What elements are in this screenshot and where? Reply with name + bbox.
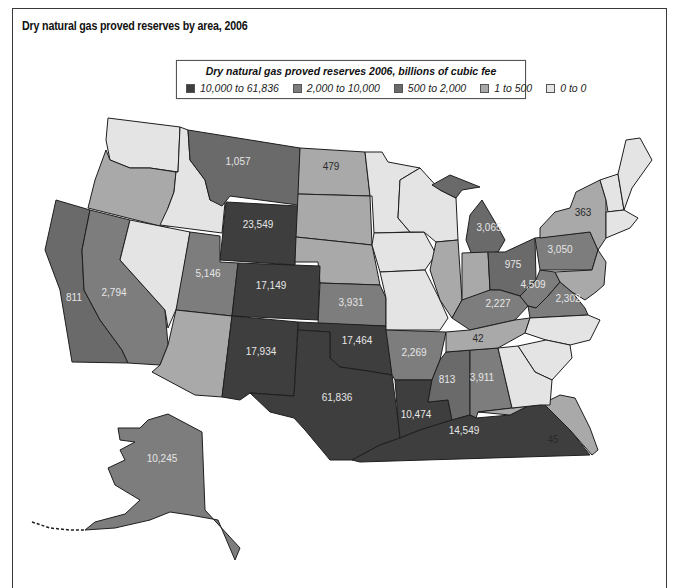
label-arkansas: 2,269: [401, 347, 426, 358]
region-mass-ct-ri: [606, 210, 638, 238]
region-wyoming: [220, 202, 298, 265]
label-wyoming: 23,549: [243, 219, 274, 230]
label-mississippi: 813: [439, 374, 456, 385]
label-kansas: 3,931: [338, 297, 363, 308]
label-ohio: 975: [505, 259, 522, 270]
region-colorado: [232, 263, 320, 320]
region-south-dakota: [296, 194, 372, 245]
label-colorado: 17,149: [256, 280, 287, 291]
label-kentucky: 2,227: [485, 298, 510, 309]
label-gulf-of-mexico: 14,549: [449, 425, 480, 436]
label-louisiana: 10,474: [401, 409, 432, 420]
region-north-dakota: [298, 148, 370, 196]
label-florida: 45: [547, 434, 559, 445]
label-new-york: 363: [575, 207, 592, 218]
label-pennsylvania: 3,050: [547, 244, 572, 255]
region-alaska: [85, 414, 240, 560]
label-alabama: 3,911: [470, 372, 495, 383]
region-new-mexico: [222, 316, 298, 400]
label-texas: 61,836: [322, 392, 353, 403]
region-iowa: [372, 232, 436, 272]
label-california: 2,794: [101, 287, 126, 298]
region-north-carolina: [525, 315, 600, 345]
label-new-mexico: 17,934: [246, 346, 277, 357]
label-michigan: 3,065: [476, 222, 501, 233]
label-california-offshore: 811: [66, 292, 82, 303]
label-utah: 5,146: [195, 268, 220, 279]
region-aleutians: [32, 522, 84, 530]
label-west-virginia: 4,509: [520, 279, 545, 290]
label-tennessee: 42: [472, 333, 484, 344]
label-north-dakota: 479: [323, 161, 340, 172]
label-virginia: 2,302: [555, 293, 580, 304]
label-alaska: 10,245: [147, 453, 178, 464]
region-maine: [618, 138, 652, 210]
label-oklahoma: 17,464: [342, 335, 373, 346]
label-montana: 1,057: [225, 156, 250, 167]
